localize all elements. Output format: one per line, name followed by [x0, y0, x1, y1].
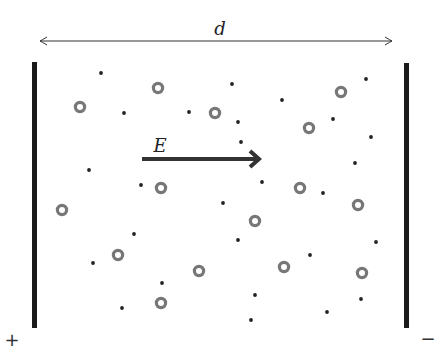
negative-plate: [404, 63, 409, 328]
electron: [187, 110, 191, 114]
electron: [359, 297, 363, 301]
electron: [236, 238, 240, 242]
electron: [325, 310, 329, 314]
plus-sign: +: [4, 329, 19, 350]
ion: [153, 83, 162, 92]
ion: [75, 102, 84, 111]
ion: [295, 183, 304, 192]
minus-sign: −: [420, 328, 435, 349]
electron: [221, 201, 225, 205]
electron: [230, 82, 234, 86]
electron: [122, 111, 126, 115]
electron: [249, 318, 253, 322]
electron: [308, 253, 312, 257]
ions-group: [57, 83, 366, 307]
electron: [132, 232, 136, 236]
electron: [99, 71, 103, 75]
distance-label: d: [214, 18, 226, 39]
electron: [120, 306, 124, 310]
ion: [279, 262, 288, 271]
electron: [280, 98, 284, 102]
ion: [156, 183, 165, 192]
electron: [321, 191, 325, 195]
capacitor-diagram: d E + −: [0, 0, 440, 363]
electron: [353, 161, 357, 165]
ion: [57, 205, 66, 214]
electron: [260, 180, 264, 184]
electron: [374, 240, 378, 244]
ion: [156, 298, 165, 307]
ion: [336, 87, 345, 96]
electron: [239, 140, 243, 144]
electron: [253, 293, 257, 297]
ion: [194, 266, 203, 275]
field-label: E: [152, 135, 166, 156]
electron: [331, 117, 335, 121]
electron: [236, 120, 240, 124]
ion: [304, 123, 313, 132]
electron: [139, 183, 143, 187]
electron: [91, 261, 95, 265]
ion: [357, 268, 366, 277]
electron: [87, 168, 91, 172]
electron: [160, 281, 164, 285]
ion: [353, 200, 362, 209]
positive-plate: [32, 62, 37, 328]
electrons-group: [87, 71, 378, 322]
ion: [250, 216, 259, 225]
electron: [369, 135, 373, 139]
ion: [113, 250, 122, 259]
ion: [210, 108, 219, 117]
electron: [364, 77, 368, 81]
